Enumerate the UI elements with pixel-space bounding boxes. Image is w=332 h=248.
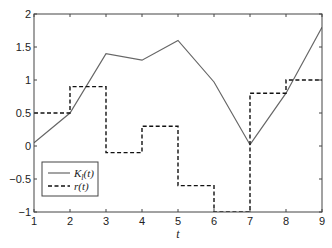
x-tick-label: 5 bbox=[175, 215, 181, 227]
x-axis-label: t bbox=[176, 227, 180, 241]
y-tick-label: 0 bbox=[25, 140, 31, 152]
y-tick-label: 2 bbox=[25, 8, 31, 20]
x-tick-label: 3 bbox=[103, 215, 109, 227]
y-tick-label: 0.5 bbox=[16, 107, 31, 119]
x-tick-label: 1 bbox=[31, 215, 37, 227]
chart: 123456789−1−0.500.511.52 Kl(t)r(t) t bbox=[0, 0, 332, 248]
y-tick-label: −0.5 bbox=[9, 173, 31, 185]
legend-r-label: r(t) bbox=[74, 180, 89, 193]
x-tick-label: 2 bbox=[67, 215, 73, 227]
x-tick-label: 9 bbox=[319, 215, 325, 227]
y-tick-label: 1.5 bbox=[16, 41, 31, 53]
x-tick-label: 8 bbox=[283, 215, 289, 227]
x-tick-label: 6 bbox=[211, 215, 217, 227]
y-tick-label: −1 bbox=[18, 206, 31, 218]
y-tick-label: 1 bbox=[25, 74, 31, 86]
legend: Kl(t)r(t) bbox=[42, 162, 98, 196]
x-tick-label: 7 bbox=[247, 215, 253, 227]
x-tick-label: 4 bbox=[139, 215, 145, 227]
